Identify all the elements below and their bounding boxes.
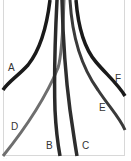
curves-diagram (0, 0, 131, 161)
label-a: A (8, 63, 15, 73)
label-f: F (115, 74, 121, 84)
caption: · · (3, 156, 7, 161)
label-e: E (99, 103, 106, 113)
curve-a (3, 0, 50, 90)
curve-b (55, 0, 60, 156)
label-d: D (11, 122, 18, 132)
curve-c (62, 0, 77, 156)
label-b: B (46, 141, 53, 151)
label-c: C (82, 141, 89, 151)
